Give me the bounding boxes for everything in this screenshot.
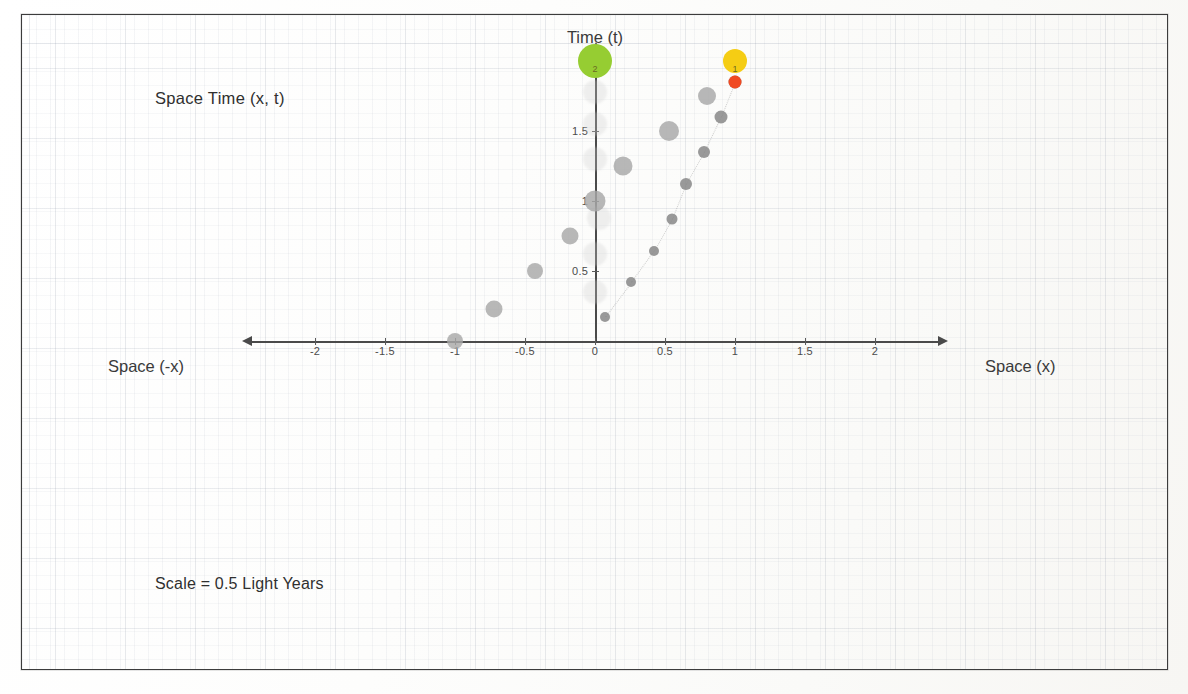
ghost-smudge-2 <box>583 147 607 171</box>
x-tick-label-0.5: 0.5 <box>657 345 673 357</box>
data-point-label-event-origin-observer-0: 2 <box>592 64 597 74</box>
data-point-left-branch-large-gray-7[interactable] <box>698 87 716 105</box>
x-tick-0.5 <box>665 338 666 345</box>
data-point-right-branch-small-gray-6[interactable] <box>715 111 728 124</box>
data-point-label-event-traveler-arrival-0: 1 <box>732 64 737 74</box>
chart-title: Space Time (x, t) <box>155 89 285 108</box>
x-tick-label-1.5: 1.5 <box>797 345 813 357</box>
x-tick-label-1: 1 <box>732 345 738 357</box>
scale-annotation: Scale = 0.5 Light Years <box>155 575 324 593</box>
data-point-right-branch-small-gray-0[interactable] <box>600 312 610 322</box>
ghost-smudge-3 <box>583 242 607 266</box>
x-axis-arrow-left <box>242 336 252 346</box>
x-tick-label-2: 2 <box>872 345 878 357</box>
ghost-smudge-4 <box>583 280 607 304</box>
data-point-left-branch-large-gray-6[interactable] <box>659 121 679 141</box>
x-tick--1.5 <box>385 338 386 345</box>
x-axis-label-positive: Space (x) <box>985 357 1056 376</box>
x-tick-label--2: -2 <box>310 345 320 357</box>
worksheet-page: -2-1.5-1-0.500.511.520.511.5221 Space Ti… <box>0 0 1188 694</box>
x-tick-1 <box>735 338 736 345</box>
x-tick-label--1.5: -1.5 <box>375 345 395 357</box>
x-axis-arrow-right <box>938 336 948 346</box>
y-axis-label: Time (t) <box>567 28 623 47</box>
x-tick-label--0.5: -0.5 <box>515 345 535 357</box>
ghost-smudge-0 <box>583 80 607 104</box>
data-point-left-branch-large-gray-4[interactable] <box>585 191 606 212</box>
x-tick-label-0: 0 <box>592 345 598 357</box>
x-axis-label-negative: Space (-x) <box>108 357 184 376</box>
data-point-left-branch-large-gray-3[interactable] <box>561 228 578 245</box>
data-point-left-branch-large-gray-2[interactable] <box>527 263 543 279</box>
x-tick--2 <box>315 338 316 345</box>
data-point-right-branch-small-gray-4[interactable] <box>680 178 692 190</box>
data-point-left-branch-large-gray-0[interactable] <box>447 333 463 349</box>
data-point-left-branch-large-gray-1[interactable] <box>486 300 503 317</box>
x-tick-1.5 <box>805 338 806 345</box>
x-tick-0 <box>595 338 596 345</box>
data-point-right-branch-small-gray-1[interactable] <box>626 277 636 287</box>
data-point-event-traveler-last-0[interactable] <box>729 76 742 89</box>
x-tick--0.5 <box>525 338 526 345</box>
ghost-smudge-1 <box>583 112 607 136</box>
y-tick-label-0.5: 0.5 <box>572 265 588 277</box>
data-point-right-branch-small-gray-5[interactable] <box>698 146 710 158</box>
y-tick-0.5 <box>592 271 599 272</box>
x-tick-2 <box>875 338 876 345</box>
data-point-right-branch-small-gray-3[interactable] <box>667 214 678 225</box>
data-point-left-branch-large-gray-5[interactable] <box>614 157 633 176</box>
data-point-right-branch-small-gray-2[interactable] <box>649 246 659 256</box>
